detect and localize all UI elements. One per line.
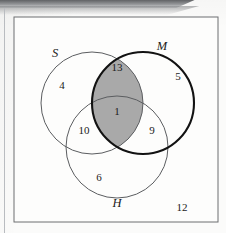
set-label-m: M (156, 39, 168, 53)
set-label-s: S (52, 46, 59, 60)
region-count-outside: 12 (177, 201, 188, 213)
venn-diagram: S M H 4 13 5 1 10 9 6 12 (0, 0, 226, 233)
region-count-m-and-h: 9 (149, 124, 155, 136)
region-count-s-m-h: 1 (114, 105, 120, 117)
region-count-s-only: 4 (59, 79, 65, 91)
scanned-figure-page: S M H 4 13 5 1 10 9 6 12 (0, 0, 226, 233)
region-count-s-and-m: 13 (112, 61, 124, 73)
region-count-s-and-h: 10 (79, 124, 91, 136)
region-count-h-only: 6 (96, 171, 102, 183)
region-count-m-only: 5 (175, 70, 181, 82)
set-label-h: H (111, 196, 122, 210)
